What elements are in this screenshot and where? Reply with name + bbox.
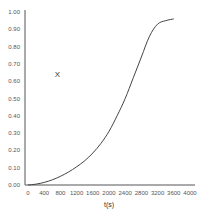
x-axis-tick-labels: 040080012001600200024002800320036004000	[26, 190, 197, 196]
y-tick-label: 0.00	[8, 182, 20, 188]
x-tick-label: 4000	[183, 190, 197, 196]
annotation-x: X	[55, 70, 61, 79]
y-tick-label: 0.40	[8, 113, 20, 119]
x-tick-label: 3200	[151, 190, 165, 196]
x-tick-label: 1600	[86, 190, 100, 196]
x-tick-label: 800	[55, 190, 66, 196]
y-tick-label: 0.80	[8, 44, 20, 50]
x-tick-label: 0	[26, 190, 30, 196]
x-tick-label: 2000	[102, 190, 116, 196]
y-tick-label: 0.70	[8, 61, 20, 67]
x-axis-label: t(s)	[104, 201, 114, 209]
y-tick-label: 0.30	[8, 130, 20, 136]
line-chart: 0.000.100.200.300.400.500.600.700.800.90…	[0, 0, 202, 214]
x-tick-label: 1200	[70, 190, 84, 196]
y-tick-label: 0.50	[8, 96, 20, 102]
x-tick-label: 3600	[167, 190, 181, 196]
data-curve	[28, 19, 174, 185]
y-tick-label: 0.90	[8, 26, 20, 32]
y-tick-label: 0.20	[8, 147, 20, 153]
x-tick-label: 400	[39, 190, 50, 196]
y-tick-label: 0.10	[8, 165, 20, 171]
y-axis-tick-labels: 0.000.100.200.300.400.500.600.700.800.90…	[8, 9, 20, 188]
y-tick-label: 0.60	[8, 78, 20, 84]
y-tick-label: 1.00	[8, 9, 20, 15]
x-tick-label: 2800	[135, 190, 149, 196]
x-tick-label: 2400	[119, 190, 133, 196]
